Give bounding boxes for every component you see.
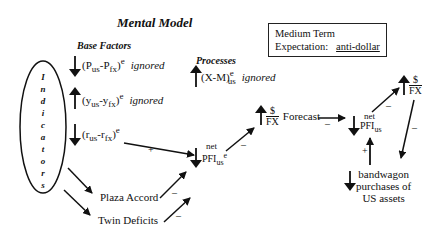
factor-interest-differential: (rus-rfx)e — [82, 125, 120, 143]
down-arrow-icon — [344, 171, 356, 191]
node-bandwagon: bandwagon purchases of US assets — [356, 168, 411, 204]
sign-plaza-pfi: – — [172, 187, 177, 198]
factor-price-differential: (Pus-Pfx)eignored — [82, 56, 165, 74]
process-trade-balance: (X-M)eusignored — [201, 68, 276, 86]
sign-pfi-fx: – — [386, 100, 391, 111]
sign-rates-pfi: + — [148, 144, 154, 155]
sign-forecast-pfi: – — [325, 118, 330, 129]
down-arrow-icon — [69, 56, 81, 77]
sign-bandwagon-pfi: + — [362, 145, 368, 156]
sign-fx-bandwagon: – — [412, 122, 417, 133]
base-factors-heading: Base Factors — [77, 40, 131, 51]
down-arrow-icon — [348, 116, 360, 136]
node-fx-forecast: $FX Forecast — [266, 106, 320, 127]
node-twin-deficits: Twin Deficits — [98, 214, 158, 226]
processes-heading: Processes — [196, 55, 236, 66]
factor-income-differential: (yus-yfx)eignored — [82, 91, 163, 109]
node-pfi-actual: netPFIus — [360, 112, 382, 134]
sign-pfi-forecast: – — [241, 139, 246, 150]
expectation-value: anti-dollar — [336, 41, 380, 52]
node-pfi-expected: netPFIuse — [202, 142, 227, 167]
down-arrow-icon — [69, 124, 81, 146]
diagram-title: Mental Model — [117, 15, 192, 31]
node-fx-actual: $FX — [409, 75, 422, 96]
down-arrow-icon — [190, 148, 202, 168]
up-arrow-icon — [69, 87, 81, 109]
node-plaza-accord: Plaza Accord — [100, 191, 158, 203]
expectation-box: Medium Term Expectation:anti-dollar — [268, 23, 387, 57]
sign-twin-pfi: – — [176, 210, 181, 221]
